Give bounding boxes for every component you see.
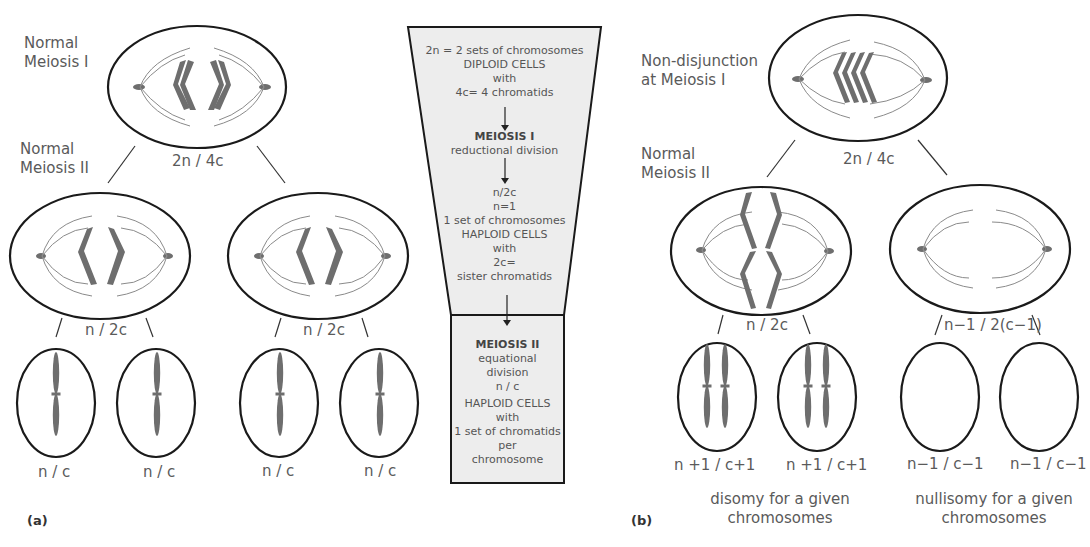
flow-line: DIPLOID CELLS — [408, 58, 601, 72]
flow-line: with — [451, 411, 564, 425]
panel-b-outcome-nullisomy: nullisomy for a given chromosomes — [910, 490, 1078, 528]
panel-a-daughter-label-left: n / 2c — [85, 321, 127, 340]
panel-b-gamete-label-3: n−1 / c−1 — [907, 455, 984, 474]
flow-line: 2n = 2 sets of chromosomes — [408, 44, 601, 58]
panel-b-meiosis2-label: Normal Meiosis II — [641, 145, 710, 183]
label-line: chromosomes — [705, 509, 855, 528]
flow-line: equational — [451, 352, 564, 366]
panel-b-gamete-label-2: n +1 / c+1 — [786, 456, 867, 475]
flow-line: chromosome — [451, 453, 564, 467]
flow-line: with — [408, 72, 601, 86]
panel-a-gamete-label-2: n / c — [143, 463, 175, 482]
flow-line: with — [408, 242, 601, 256]
panel-a-parent-cell — [108, 26, 286, 148]
panel-a-parent-label: 2n / 4c — [172, 152, 223, 171]
meiosis2-title: MEIOSIS II — [451, 338, 564, 352]
panel-b-daughter-cell-right — [890, 185, 1070, 313]
panel-b-gamete-label-1: n +1 / c+1 — [674, 456, 755, 475]
panel-a-daughter-label-right: n / 2c — [303, 321, 345, 340]
panel-b-daughter-label-left: n / 2c — [746, 316, 788, 335]
panel-a-gametes — [17, 349, 418, 457]
centrosome-icon — [133, 84, 145, 90]
panel-b-tag: (b) — [631, 513, 652, 528]
panel-b-meiosis1-label: Non-disjunction at Meiosis I — [641, 52, 758, 90]
panel-b-parent-cell — [769, 15, 947, 141]
meiosis1-subtitle: reductional division — [408, 144, 601, 158]
flow-line: n=1 — [408, 200, 601, 214]
label-line: Meiosis II — [641, 164, 710, 183]
panel-a-gamete-label-3: n / c — [262, 462, 294, 481]
label-line: chromosomes — [910, 509, 1078, 528]
meiosis1-title: MEIOSIS I — [408, 130, 601, 144]
flow-line: HAPLOID CELLS — [451, 397, 564, 411]
flow-line: n/2c — [408, 186, 601, 200]
panel-a-daughter-cell-right — [228, 193, 408, 319]
centrosome-icon — [259, 84, 271, 90]
panel-b-daughter-label-right: n−1 / 2(c−1) — [944, 316, 1042, 335]
label-line: disomy for a given — [705, 490, 855, 509]
flow-line: per — [451, 439, 564, 453]
panel-a-tag: (a) — [27, 513, 48, 528]
label-line: Normal — [20, 140, 89, 159]
panel-a-meiosis1-label: Normal Meiosis I — [24, 34, 89, 72]
flow-line: 1 set of chromosomes — [408, 214, 601, 228]
label-line: Non-disjunction — [641, 52, 758, 71]
label-line: Normal — [24, 34, 89, 53]
flow-line: HAPLOID CELLS — [408, 228, 601, 242]
label-line: at Meiosis I — [641, 71, 758, 90]
flow-line: 2c= — [408, 256, 601, 270]
label-line: nullisomy for a given — [910, 490, 1078, 509]
label-line: Normal — [641, 145, 710, 164]
panel-b-outcome-disomy: disomy for a given chromosomes — [705, 490, 855, 528]
flow-line: sister chromatids — [408, 270, 601, 284]
panel-a-meiosis2-label: Normal Meiosis II — [20, 140, 89, 178]
flow-line: n / c — [451, 380, 564, 394]
panel-a-daughter-cell-left — [10, 193, 190, 319]
panel-b-gametes — [678, 343, 1078, 451]
panel-b-gamete-label-4: n−1 / c−1 — [1010, 455, 1087, 474]
flowchart-text: 2n = 2 sets of chromosomes DIPLOID CELLS… — [408, 44, 601, 284]
panel-b-parent-label: 2n / 4c — [843, 150, 894, 169]
label-line: Meiosis I — [24, 53, 89, 72]
flow-line: division — [451, 366, 564, 380]
panel-a-gamete-label-4: n / c — [364, 462, 396, 481]
panel-b-daughter-cell-left — [671, 187, 851, 315]
panel-a-gamete-label-1: n / c — [38, 463, 70, 482]
label-line: Meiosis II — [20, 159, 89, 178]
flow-line: 1 set of chromatids — [451, 425, 564, 439]
flow-line: 4c= 4 chromatids — [408, 86, 601, 100]
flowchart-meiosis2-box: MEIOSIS II equational division n / c HAP… — [451, 338, 564, 467]
